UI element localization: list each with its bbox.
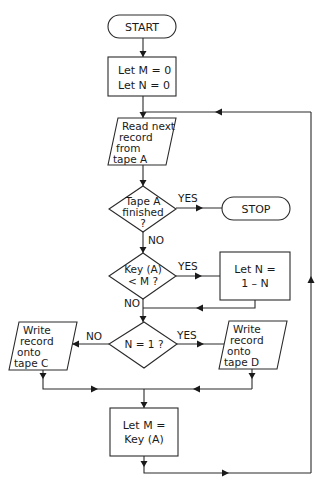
node-set-m-line-1: Let M =	[123, 419, 166, 432]
arrow-right-icon	[195, 273, 202, 280]
node-keycmp-line-2: < M ?	[128, 275, 158, 287]
process-shape	[110, 408, 178, 456]
node-stop-label: STOP	[242, 203, 271, 216]
arrow-down-icon	[249, 373, 256, 379]
node-n-eq-1: N = 1 ?	[109, 322, 177, 368]
edge-setm-loop	[144, 456, 311, 473]
arrow-down-icon	[141, 461, 148, 467]
label-finished-no: NO	[148, 234, 164, 246]
arrow-left-icon	[215, 109, 222, 116]
node-n-eq-1-label: N = 1 ?	[125, 338, 164, 350]
node-init: Let M = 0 Let N = 0	[108, 57, 176, 96]
node-finished: Tape A finished ?	[109, 186, 176, 232]
label-keycmp-yes: YES	[177, 260, 198, 272]
arrow-right-icon	[196, 205, 203, 212]
node-keycmp: Key (A) < M ?	[109, 253, 176, 299]
node-finished-line-3: ?	[140, 217, 146, 229]
node-init-line-1: Let M = 0	[118, 64, 171, 77]
arrow-down-icon	[140, 316, 147, 322]
node-write-d: Write record onto tape D	[219, 321, 287, 369]
label-neq1-no: NO	[86, 330, 102, 342]
node-write-c: Write record onto tape C	[9, 322, 77, 370]
node-keycmp-line-1: Key (A)	[124, 263, 162, 275]
arrow-down-icon	[140, 112, 147, 118]
process-shape	[220, 252, 290, 300]
node-write-d-line-4: tape D	[224, 356, 259, 368]
arrow-left-icon	[196, 305, 203, 312]
node-read: Read next record from tape A	[108, 118, 176, 165]
node-set-m-line-2: Key (A)	[124, 433, 164, 446]
node-start-label: START	[125, 21, 159, 34]
arrow-right-icon	[91, 386, 98, 393]
arrow-right-icon	[197, 341, 204, 348]
node-toggle: Let N = 1 – N	[220, 252, 290, 300]
arrow-down-icon	[141, 402, 148, 408]
label-keycmp-no: NO	[124, 297, 140, 309]
edge-writec-merge	[43, 370, 252, 389]
node-read-line-4: tape A	[113, 153, 148, 165]
arrow-left-icon	[193, 386, 200, 393]
arrow-down-icon	[140, 247, 147, 253]
label-finished-yes: YES	[177, 192, 198, 204]
arrow-down-icon	[140, 180, 147, 186]
arrow-right-icon	[222, 470, 229, 477]
arrow-up-icon	[308, 276, 315, 283]
arrow-down-icon	[140, 51, 147, 57]
node-stop: STOP	[222, 197, 290, 220]
flowchart-svg: START Let M = 0 Let N = 0 Read next reco…	[0, 0, 319, 487]
node-start: START	[108, 15, 176, 38]
node-toggle-line-2: 1 – N	[241, 277, 269, 290]
flowchart-canvas: START Let M = 0 Let N = 0 Read next reco…	[0, 0, 319, 487]
node-toggle-line-1: Let N =	[234, 263, 275, 276]
node-init-line-2: Let N = 0	[118, 79, 170, 92]
label-neq1-yes: YES	[176, 329, 197, 341]
node-set-m: Let M = Key (A)	[110, 408, 178, 456]
arrow-down-icon	[40, 373, 47, 379]
node-write-c-line-4: tape C	[14, 357, 48, 369]
